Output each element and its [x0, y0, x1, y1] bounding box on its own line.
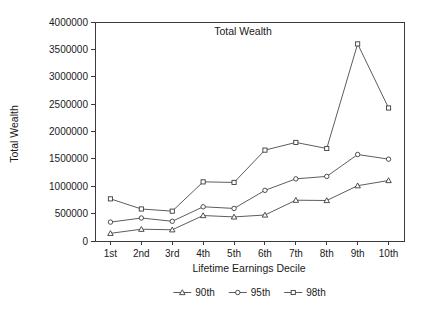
x-tick-label: 10th [379, 248, 398, 259]
y-axis-title: Total Wealth [8, 105, 20, 163]
y-tick-label: 500000 [55, 208, 89, 219]
x-tick-label: 3rd [165, 248, 179, 259]
y-tick-label: 1000000 [49, 181, 88, 192]
x-tick-label: 8th [320, 248, 334, 259]
data-point-95th-7th [294, 177, 298, 181]
data-point-98th-9th [356, 42, 360, 46]
y-tick-label: 2000000 [49, 126, 88, 137]
y-tick-label: 3000000 [49, 71, 88, 82]
data-point-98th-8th [325, 146, 329, 150]
x-tick-label: 9th [351, 248, 365, 259]
data-point-98th-2nd [139, 207, 143, 211]
x-tick-label: 6th [258, 248, 272, 259]
chart-title: Total Wealth [214, 25, 272, 37]
y-tick-label: 0 [82, 236, 88, 247]
data-point-95th-3rd [170, 219, 174, 223]
data-point-98th-10th [386, 106, 390, 110]
data-point-95th-8th [325, 174, 329, 178]
data-point-95th-9th [355, 152, 359, 156]
y-tick-label: 1500000 [49, 153, 88, 164]
legend-label-98th: 98th [306, 287, 325, 298]
data-point-95th-4th [201, 205, 205, 209]
data-point-98th-6th [263, 148, 267, 152]
data-point-98th-5th [232, 180, 236, 184]
legend-marker-98th [291, 290, 295, 294]
y-tick-label: 4000000 [49, 17, 88, 28]
x-tick-label: 5th [227, 248, 241, 259]
x-tick-label: 4th [196, 248, 210, 259]
legend-label-95th: 95th [251, 287, 270, 298]
data-point-98th-3rd [170, 209, 174, 213]
data-point-98th-7th [294, 140, 298, 144]
data-point-98th-1st [108, 197, 112, 201]
data-point-95th-2nd [139, 216, 143, 220]
chart-figure: 0500000100000015000002000000250000030000… [0, 0, 421, 317]
legend-label-90th: 90th [195, 287, 214, 298]
data-point-98th-4th [201, 180, 205, 184]
data-point-95th-5th [232, 206, 236, 210]
data-point-95th-6th [263, 188, 267, 192]
data-point-95th-1st [108, 220, 112, 224]
data-point-95th-10th [386, 157, 390, 161]
x-tick-label: 7th [289, 248, 303, 259]
y-tick-label: 2500000 [49, 99, 88, 110]
total-wealth-line-chart: 0500000100000015000002000000250000030000… [0, 0, 421, 317]
x-axis-title: Lifetime Earnings Decile [192, 262, 305, 274]
y-tick-label: 3500000 [49, 44, 88, 55]
x-tick-label: 1st [104, 248, 118, 259]
legend-marker-95th [236, 290, 240, 294]
x-tick-label: 2nd [133, 248, 150, 259]
